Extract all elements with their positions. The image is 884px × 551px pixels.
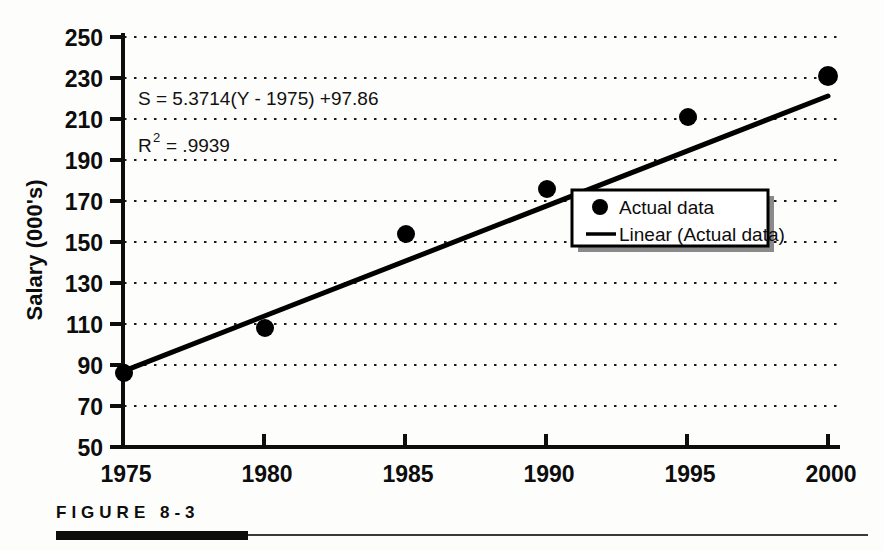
y-tick-label-110: 110 xyxy=(66,312,103,338)
x-tick-label-1980: 1980 xyxy=(241,461,292,487)
caption-thick-rule xyxy=(56,531,248,540)
data-point-1985 xyxy=(397,225,415,243)
y-axis-title: Salary (000's) xyxy=(22,180,47,321)
data-point-2000 xyxy=(818,66,838,86)
y-tick-label-130: 130 xyxy=(65,271,103,297)
x-tick-label-1985: 1985 xyxy=(382,461,433,487)
y-tick-label-70: 70 xyxy=(77,394,103,420)
regression-annotation: S = 5.3714(Y - 1975) +97.86 R 2 = .9939 xyxy=(138,88,379,156)
r-squared-value: = .9939 xyxy=(166,135,230,156)
legend-label-linear-actual-data[interactable]: Linear (Actual data) xyxy=(619,224,785,245)
legend-label-actual-data[interactable]: Actual data xyxy=(619,197,714,218)
data-point-1975 xyxy=(115,364,133,382)
r-squared-exponent: 2 xyxy=(153,130,160,145)
figure-caption-text: FIGURE 8-3 xyxy=(56,503,200,523)
data-point-1990 xyxy=(538,180,556,198)
y-tick-label-170: 170 xyxy=(65,189,103,215)
data-point-1995 xyxy=(679,108,697,126)
y-tick-label-210: 210 xyxy=(65,107,103,133)
legend-marker-circle-icon xyxy=(592,199,608,215)
equation-text: S = 5.3714(Y - 1975) +97.86 xyxy=(138,88,379,109)
x-tick-label-1990: 1990 xyxy=(523,461,574,487)
y-tick-label-190: 190 xyxy=(65,148,103,174)
x-tick-labels: 1975 1980 1985 1990 1995 2000 xyxy=(100,461,856,487)
y-tick-labels: 250 230 210 190 170 150 130 110 90 70 50 xyxy=(65,25,103,461)
salary-vs-year-chart: 250 230 210 190 170 150 130 110 90 70 50… xyxy=(0,0,884,500)
chart-legend[interactable]: Actual data Linear (Actual data) xyxy=(572,190,785,252)
y-tick-label-150: 150 xyxy=(65,230,103,256)
y-tick-label-250: 250 xyxy=(65,25,103,51)
y-tick-label-90: 90 xyxy=(77,353,103,379)
x-tick-label-1995: 1995 xyxy=(664,461,715,487)
figure-container: 250 230 210 190 170 150 130 110 90 70 50… xyxy=(0,0,884,551)
x-tick-label-1975: 1975 xyxy=(100,461,151,487)
r-squared-base: R xyxy=(138,135,152,156)
y-tick-label-230: 230 xyxy=(65,66,103,92)
x-tick-label-2000: 2000 xyxy=(805,461,856,487)
y-tick-label-50: 50 xyxy=(77,435,103,461)
data-point-1980 xyxy=(256,319,274,337)
caption-thin-rule xyxy=(248,534,868,536)
